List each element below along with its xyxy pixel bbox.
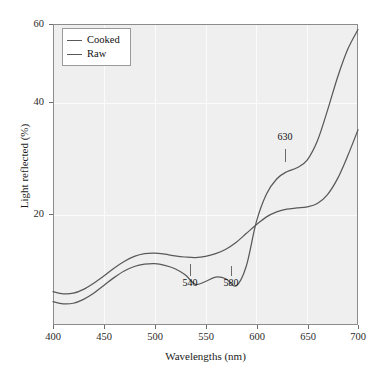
x-tick xyxy=(257,325,258,329)
x-tick-label: 550 xyxy=(184,331,228,342)
x-tick-label: 500 xyxy=(133,331,177,342)
line-raw xyxy=(53,30,358,304)
legend-label: Raw xyxy=(87,47,106,61)
x-tick xyxy=(104,325,105,329)
x-tick-label: 450 xyxy=(82,331,126,342)
annotation-540: 540 xyxy=(173,277,207,288)
legend-entry-cooked: Cooked xyxy=(67,33,125,47)
leader-line-540 xyxy=(190,264,191,276)
leader-line-630 xyxy=(285,149,286,162)
y-axis-title: Light reflected (%) xyxy=(18,56,30,276)
x-tick-label: 650 xyxy=(286,331,330,342)
y-tick-label: 60 xyxy=(0,18,44,29)
y-tick xyxy=(49,214,53,215)
legend-entry-raw: Raw xyxy=(67,47,125,61)
annotation-630: 630 xyxy=(268,131,302,142)
x-tick xyxy=(308,325,309,329)
x-tick-label: 600 xyxy=(235,331,279,342)
leader-line-580 xyxy=(231,266,232,276)
legend: Cooked Raw xyxy=(62,28,131,66)
legend-label: Cooked xyxy=(87,33,120,47)
x-tick xyxy=(155,325,156,329)
x-axis-title: Wavelengths (nm) xyxy=(53,350,358,362)
legend-swatch-icon xyxy=(67,40,82,41)
reflectance-spectrum-chart: 540 580 630 Cooked Raw 400 450 500 550 6… xyxy=(0,0,382,373)
x-tick-label: 700 xyxy=(336,331,380,342)
line-cooked xyxy=(53,130,358,294)
series-lines xyxy=(0,0,382,373)
x-tick-label: 400 xyxy=(31,331,75,342)
y-tick xyxy=(49,24,53,25)
annotation-580: 580 xyxy=(214,277,248,288)
x-tick xyxy=(206,325,207,329)
x-tick xyxy=(53,325,54,329)
legend-swatch-icon xyxy=(67,54,82,55)
y-tick xyxy=(49,102,53,103)
x-tick xyxy=(358,325,359,329)
